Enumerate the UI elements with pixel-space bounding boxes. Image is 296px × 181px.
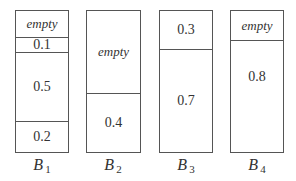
bin-b3-label: B3	[156, 156, 216, 175]
bin-b3: 0.3 0.7	[159, 10, 213, 153]
bin-b1-segment-empty: empty	[16, 11, 68, 37]
bin-b2: empty 0.4	[86, 10, 141, 153]
bin-b2-label: B2	[83, 156, 143, 175]
bin-b1-label: B1	[12, 156, 72, 175]
bin-b4-segment-empty: empty	[231, 11, 283, 40]
bin-b2-segment-empty: empty	[87, 11, 140, 93]
bin-b1-segment-0-2: 0.2	[16, 121, 68, 152]
bin-b3-segment-0-3: 0.3	[160, 11, 212, 49]
bin-b1-segment-0-5: 0.5	[16, 52, 68, 121]
bin-b1-segment-0-1: 0.1	[16, 37, 68, 52]
bin-b3-segment-0-7: 0.7	[160, 49, 212, 152]
bin-b4-segment-0-8: 0.8	[231, 40, 283, 152]
bin-b2-segment-0-4: 0.4	[87, 93, 140, 152]
bin-b4: empty 0.8	[230, 10, 284, 153]
bin-b4-label: B4	[227, 156, 287, 175]
bin-b1: empty 0.1 0.5 0.2	[15, 10, 69, 153]
